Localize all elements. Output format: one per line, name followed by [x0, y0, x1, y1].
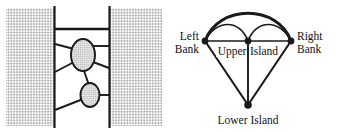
label-right-bank-line1: Right — [297, 30, 323, 43]
label-upper-island-left: Upper — [218, 45, 247, 58]
node-lower-island — [244, 101, 252, 109]
node-left-bank — [202, 38, 209, 45]
multigraph-panel: Left Bank Right Bank Upper Island Lower … — [168, 0, 337, 132]
left-bank-region — [6, 8, 54, 126]
figure-bridges-and-graph: Left Bank Right Bank Upper Island Lower … — [0, 0, 337, 132]
river-map-svg — [0, 0, 168, 132]
river-map-panel — [0, 0, 168, 132]
right-bank-region — [110, 8, 162, 126]
lower-island-region — [81, 83, 100, 107]
node-right-bank — [288, 38, 295, 45]
multigraph-svg: Left Bank Right Bank Upper Island Lower … — [168, 0, 337, 132]
edge-upper-right-arc — [248, 25, 291, 42]
upper-island-region — [71, 39, 95, 71]
label-left-bank-line1: Left — [180, 30, 200, 42]
label-lower-island: Lower Island — [218, 114, 279, 126]
node-upper-island — [245, 38, 252, 45]
label-right-bank-line2: Bank — [297, 43, 322, 55]
label-upper-island-right: Island — [250, 45, 278, 57]
label-left-bank-line2: Bank — [175, 43, 200, 55]
edge-left-upper-arc — [205, 25, 248, 42]
